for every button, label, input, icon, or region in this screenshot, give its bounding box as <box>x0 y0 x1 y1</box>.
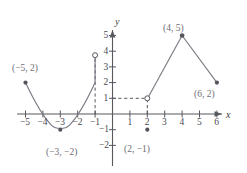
closed-points <box>23 33 219 132</box>
graph-figure: −5 −4 −3 −2 −1 1 2 3 4 5 6 −2 −1 1 2 3 4… <box>0 0 247 173</box>
y-tick-label-5: 5 <box>104 31 109 41</box>
segment-4-5-to-6-2 <box>182 36 217 83</box>
point-neg5-2 <box>23 81 27 85</box>
x-axis-label: x <box>226 110 230 120</box>
point-4-5 <box>180 33 185 38</box>
x-axis <box>17 111 222 117</box>
y-tick-label-1: 1 <box>104 94 109 104</box>
piecewise-linear-path <box>149 36 217 97</box>
y-tick-label-4: 4 <box>104 47 109 57</box>
y-tick-label--1: −1 <box>99 125 109 135</box>
x-tick-label-1: 1 <box>128 118 133 128</box>
x-tick-label--4: −4 <box>38 118 48 128</box>
segment-2-1-to-4-5 <box>149 36 183 97</box>
annotation-4-5: (4, 5) <box>163 24 184 34</box>
x-tick-label-3: 3 <box>162 118 167 128</box>
x-tick-label--3: −3 <box>55 118 65 128</box>
y-tick-label-3: 3 <box>104 63 109 73</box>
x-tick-label-2: 2 <box>145 118 150 128</box>
y-tick-label--2: −2 <box>99 141 109 151</box>
annotation-6-2: (6, 2) <box>194 90 215 100</box>
x-tick-label-6: 6 <box>214 118 219 128</box>
x-tick-label-4: 4 <box>180 118 185 128</box>
y-axis-label: y <box>115 17 119 27</box>
open-points <box>93 53 150 101</box>
x-tick-label--5: −5 <box>20 118 30 128</box>
annotation-2-neg1: (2, −1) <box>124 145 150 155</box>
annotation-neg3-neg2: (−3, −2) <box>46 148 77 158</box>
point-neg3-neg2 <box>58 128 62 132</box>
x-tick-label--2: −2 <box>73 118 83 128</box>
y-tick-label-2: 2 <box>104 78 109 88</box>
x-tick-label-5: 5 <box>197 118 202 128</box>
annotation-neg5-2: (−5, 2) <box>12 64 38 74</box>
open-point-neg1-4 <box>93 53 98 58</box>
point-2-neg1 <box>145 128 149 132</box>
open-point-2-1 <box>145 96 150 101</box>
point-6-2 <box>215 81 219 85</box>
